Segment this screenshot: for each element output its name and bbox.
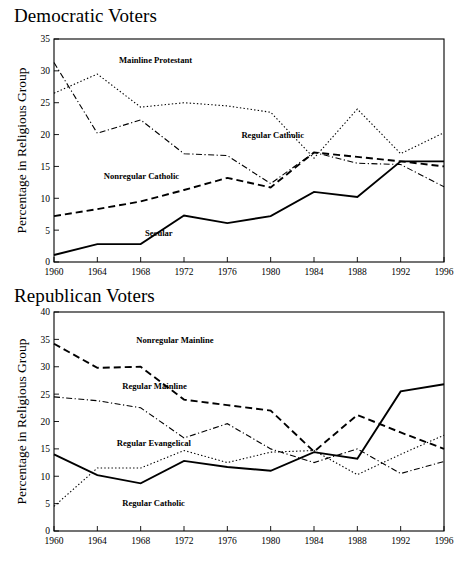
x-tick-label: 1996: [435, 267, 454, 277]
y-tick-label: 0: [45, 526, 50, 536]
x-tick-label: 1984: [305, 536, 324, 546]
chart-svg-democratic: 0510152025303519601964196819721976198019…: [0, 0, 463, 286]
series-label-secular: Secular: [145, 228, 173, 238]
series-line-nonregular-mainline: [54, 344, 444, 452]
x-tick-label: 1972: [175, 536, 194, 546]
figure-republican-voters: Republican Voters 0510152025303540196019…: [0, 286, 463, 566]
y-tick-label: 5: [45, 499, 50, 509]
x-tick-label: 1960: [45, 536, 64, 546]
plot-area-democratic: 0510152025303519601964196819721976198019…: [0, 0, 463, 286]
x-tick-label: 1988: [348, 536, 367, 546]
figure-democratic-voters: Democratic Voters 0510152025303519601964…: [0, 0, 463, 286]
x-tick-label: 1996: [435, 536, 454, 546]
y-tick-label: 35: [41, 34, 51, 44]
x-tick-label: 1964: [88, 267, 107, 277]
series-line-mainline-protestant: [54, 74, 444, 158]
y-tick-label: 40: [41, 307, 51, 317]
x-tick-label: 1976: [218, 267, 237, 277]
y-axis-title: Percentage in Religious Group: [14, 67, 29, 233]
y-tick-label: 30: [41, 66, 51, 76]
y-tick-label: 20: [41, 130, 51, 140]
x-tick-label: 1988: [348, 267, 367, 277]
y-tick-label: 10: [41, 194, 51, 204]
series-line-regular-catholic: [54, 63, 444, 187]
series-line-nonregular-catholic: [54, 152, 444, 216]
plot-area-republican: 0510152025303540196019641968197219761980…: [0, 286, 463, 566]
y-tick-label: 35: [41, 335, 51, 345]
x-tick-label: 1984: [305, 267, 324, 277]
series-label-nonregular-mainline: Nonregular Mainline: [136, 335, 213, 345]
x-tick-label: 1980: [261, 267, 280, 277]
series-label-nonregular-catholic: Nonregular Catholic: [104, 171, 180, 181]
y-axis-title: Percentage in Religious Group: [14, 338, 29, 504]
y-tick-label: 5: [45, 226, 50, 236]
series-label-mainline-protestant: Mainline Protestant: [119, 55, 192, 65]
y-tick-label: 0: [45, 257, 50, 267]
series-label-regular-catholic: Regular Catholic: [241, 130, 304, 140]
series-group-republican: [54, 344, 444, 507]
y-tick-label: 15: [41, 162, 51, 172]
y-tick-label: 15: [41, 444, 51, 454]
y-tick-label: 25: [41, 98, 51, 108]
x-tick-label: 1976: [218, 536, 237, 546]
series-line-regular-catholic: [54, 435, 444, 506]
y-tick-label: 20: [41, 417, 51, 427]
x-tick-label: 1968: [131, 267, 150, 277]
axes-republican: 0510152025303540196019641968197219761980…: [14, 307, 454, 546]
series-label-regular-evangelical: Regular Evangelical: [117, 438, 192, 448]
y-tick-label: 10: [41, 472, 51, 482]
x-tick-label: 1972: [175, 267, 194, 277]
x-tick-label: 1968: [131, 536, 150, 546]
axes-democratic: 0510152025303519601964196819721976198019…: [14, 34, 454, 277]
chart-svg-republican: 0510152025303540196019641968197219761980…: [0, 286, 463, 566]
x-tick-label: 1992: [391, 536, 410, 546]
y-tick-label: 25: [41, 390, 51, 400]
x-tick-label: 1964: [88, 536, 107, 546]
x-tick-label: 1992: [391, 267, 410, 277]
series-label-regular-mainline: Regular Mainline: [122, 381, 187, 391]
annotation-group-democratic: Mainline ProtestantRegular CatholicNonre…: [104, 55, 304, 238]
x-tick-label: 1960: [45, 267, 64, 277]
series-label-regular-catholic: Regular Catholic: [122, 498, 185, 508]
series-group-democratic: [54, 63, 444, 255]
x-tick-label: 1980: [261, 536, 280, 546]
chart-page: Democratic Voters 0510152025303519601964…: [0, 0, 463, 566]
y-tick-label: 30: [41, 362, 51, 372]
